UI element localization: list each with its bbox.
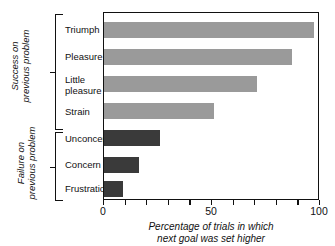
x-axis-tick-90 bbox=[297, 200, 298, 205]
group-bracket-success bbox=[55, 14, 63, 130]
x-axis-tick-60 bbox=[233, 200, 234, 205]
category-label-strain-text: Strain bbox=[65, 106, 90, 117]
group-label-success-line-2: previous problem bbox=[20, 7, 31, 125]
x-axis-tick-30 bbox=[168, 200, 169, 205]
bar-frustration bbox=[104, 181, 123, 197]
category-label-little-pleasure-line-2: pleasure bbox=[65, 86, 101, 97]
bar-little-pleasure bbox=[104, 76, 257, 92]
bar-pleasure bbox=[104, 49, 292, 65]
category-label-triumph-text: Triumph bbox=[65, 24, 100, 35]
x-axis-title-line-1: Percentage of trials in which bbox=[103, 221, 319, 233]
group-label-failure: Failure on previous problem bbox=[15, 123, 37, 203]
bar-triumph bbox=[104, 22, 314, 38]
bar-chart: Success on previous problem Failure on p… bbox=[0, 0, 335, 246]
bar-unconcern bbox=[104, 130, 160, 146]
bar-strain bbox=[104, 103, 214, 119]
x-axis-tick-80 bbox=[276, 200, 277, 205]
category-label-little-pleasure: Little pleasure bbox=[65, 75, 101, 96]
x-axis-tick-70 bbox=[254, 200, 255, 205]
group-label-success: Success on previous problem bbox=[9, 7, 31, 125]
x-axis-tick-10 bbox=[125, 200, 126, 205]
group-bracket-failure bbox=[55, 132, 63, 201]
x-axis-tick-label-0: 0 bbox=[100, 205, 106, 217]
x-axis-title-line-2: next goal was set higher bbox=[103, 233, 319, 245]
group-label-success-line-1: Success on bbox=[9, 7, 20, 125]
group-label-failure-line-1: Failure on bbox=[15, 123, 26, 203]
plot-area bbox=[103, 12, 319, 200]
bar-concern bbox=[104, 157, 139, 173]
category-label-pleasure: Pleasure bbox=[65, 52, 103, 63]
x-axis-tick-40 bbox=[189, 200, 190, 205]
category-label-pleasure-text: Pleasure bbox=[65, 51, 103, 62]
group-bracket-failure-tick bbox=[50, 167, 56, 168]
x-axis-tick-label-100: 100 bbox=[310, 205, 328, 217]
category-label-concern: Concern bbox=[65, 160, 101, 171]
category-label-strain: Strain bbox=[65, 107, 90, 118]
group-label-failure-line-2: previous problem bbox=[26, 123, 37, 203]
x-axis-title: Percentage of trials in which next goal … bbox=[103, 221, 319, 245]
category-label-triumph: Triumph bbox=[65, 25, 100, 36]
group-bracket-success-tick bbox=[50, 72, 56, 73]
x-axis-tick-20 bbox=[146, 200, 147, 205]
x-axis-tick-label-50: 50 bbox=[205, 205, 217, 217]
category-label-little-pleasure-line-1: Little bbox=[65, 75, 101, 86]
category-label-concern-text: Concern bbox=[65, 159, 101, 170]
